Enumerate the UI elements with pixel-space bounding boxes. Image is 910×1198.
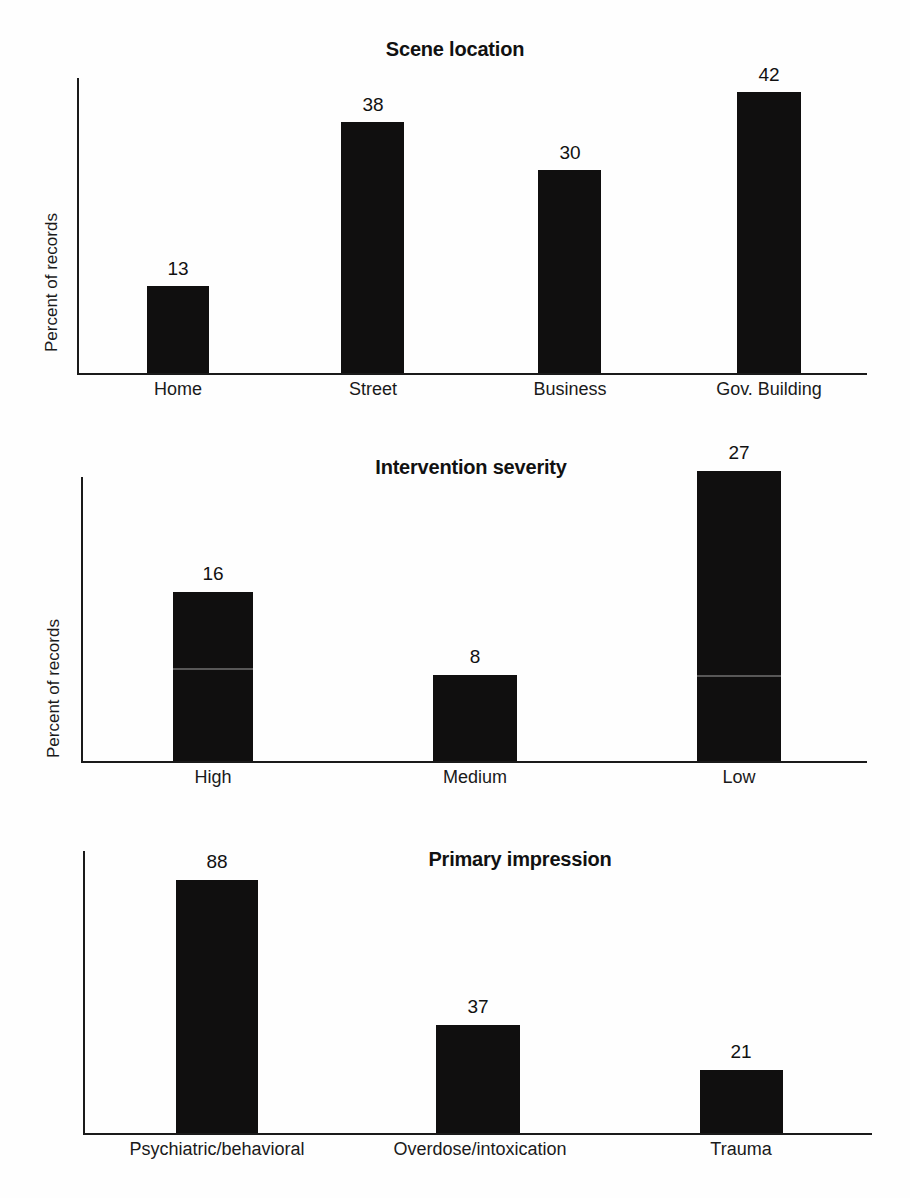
x-axis-line-scene-location (77, 373, 867, 375)
y-axis-line-primary-impression (83, 851, 85, 1134)
bar-home (147, 286, 209, 373)
category-label-high: High (153, 767, 273, 788)
bar-gov-building (737, 92, 801, 373)
y-axis-label-intervention-severity: Percent of records (44, 619, 64, 758)
chart-title-primary-impression: Primary impression (300, 848, 740, 871)
chart-title-scene-location: Scene location (180, 38, 730, 61)
y-axis-line-intervention-severity (81, 477, 83, 762)
chart-panel-scene-location: Scene location Percent of records 13 38 … (0, 0, 910, 410)
category-label-low: Low (679, 767, 799, 788)
category-label-overdose-intoxication: Overdose/intoxication (370, 1139, 590, 1160)
bar-business (538, 170, 601, 373)
bar-value-high: 16 (153, 563, 273, 585)
chart-panel-intervention-severity: Intervention severity Percent of records… (0, 420, 910, 800)
bar-value-gov-building: 42 (709, 64, 829, 86)
bar-street (341, 122, 404, 373)
bar-value-business: 30 (510, 142, 630, 164)
chart-title-intervention-severity: Intervention severity (196, 456, 746, 479)
category-label-street: Street (313, 379, 433, 400)
bar-value-low: 27 (679, 442, 799, 464)
category-label-trauma: Trauma (681, 1139, 801, 1160)
category-label-business: Business (510, 379, 630, 400)
bar-trauma (700, 1070, 783, 1133)
bar-psychiatric-behavioral (176, 880, 258, 1133)
y-axis-label-scene-location: Percent of records (42, 213, 62, 352)
category-label-medium: Medium (415, 767, 535, 788)
chart-panel-primary-impression: Primary impression Percent of records 88… (0, 820, 910, 1198)
category-label-home: Home (118, 379, 238, 400)
bar-high (173, 592, 253, 761)
bar-value-psychiatric-behavioral: 88 (157, 851, 277, 873)
bar-medium (433, 675, 517, 761)
bar-overdose-intoxication (436, 1025, 520, 1133)
figure-canvas: Scene location Percent of records 13 38 … (0, 0, 910, 1198)
x-axis-line-intervention-severity (81, 761, 867, 763)
bar-value-trauma: 21 (681, 1041, 801, 1063)
bar-value-home: 13 (118, 258, 238, 280)
category-label-gov-building: Gov. Building (689, 379, 849, 400)
bar-value-street: 38 (313, 94, 433, 116)
bar-low (697, 471, 781, 761)
x-axis-line-primary-impression (83, 1133, 872, 1135)
bar-value-overdose-intoxication: 37 (418, 996, 538, 1018)
bar-value-medium: 8 (415, 646, 535, 668)
category-label-psychiatric-behavioral: Psychiatric/behavioral (107, 1139, 327, 1160)
y-axis-line-scene-location (77, 78, 79, 374)
